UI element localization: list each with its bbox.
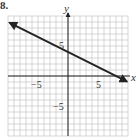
y-axis-label: y: [64, 3, 69, 14]
x-tick-label-5: 5: [96, 80, 101, 90]
x-tick-label-neg5: −5: [31, 80, 42, 90]
y-tick-label-neg5: −5: [53, 102, 64, 112]
x-axis-label: x: [131, 72, 136, 83]
coordinate-plane: [0, 0, 137, 137]
y-tick-label-5: 5: [59, 41, 64, 51]
